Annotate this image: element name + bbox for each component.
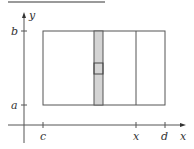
tick-label-a: a [11,99,18,112]
y-axis-label: y [28,9,36,22]
x-axis-label: x [180,130,187,143]
diagram: y x c x d b a [0,0,194,149]
x-axis-arrow-icon [180,123,186,127]
shaded-strip [94,31,103,105]
tick-label-b: b [11,25,18,38]
tick-label-c: c [40,130,46,143]
tick-label-x: x [133,130,140,143]
region-rectangle [43,31,165,105]
tick-label-d: d [161,130,168,143]
y-axis-arrow-icon [22,12,26,18]
